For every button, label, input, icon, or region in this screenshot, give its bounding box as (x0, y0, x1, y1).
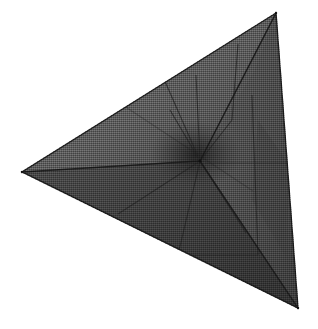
tetrahedron-render (0, 0, 318, 329)
vertex-apex-top (275, 12, 277, 14)
vertex-center-interior (198, 159, 201, 162)
render-viewport (0, 0, 318, 329)
vertex-bottom-right (297, 307, 299, 309)
vertex-left (21, 171, 23, 173)
